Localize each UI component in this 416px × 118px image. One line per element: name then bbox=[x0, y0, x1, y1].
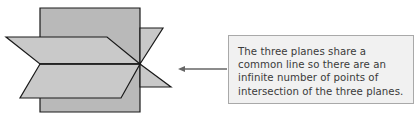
callout-line: intersection of the three planes. bbox=[238, 85, 407, 98]
callout-line: infinite number of points of bbox=[238, 71, 407, 84]
pointer-arrow bbox=[178, 66, 227, 72]
angled-plane-lower bbox=[20, 64, 140, 98]
angled-plane-upper-right bbox=[140, 28, 163, 64]
angled-plane-lower-right bbox=[140, 64, 171, 87]
explanation-callout: The three planes share a common line so … bbox=[228, 35, 414, 104]
callout-line: The three planes share a bbox=[238, 45, 407, 58]
callout-line: common line so there are an bbox=[238, 58, 407, 71]
